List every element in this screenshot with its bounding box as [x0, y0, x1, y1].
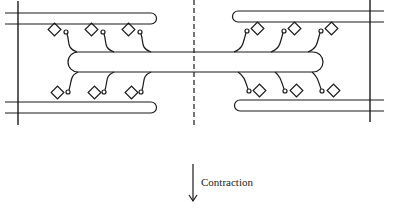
- sarcomere-diagram: [0, 0, 398, 218]
- thin-filament-top-left: [5, 13, 157, 24]
- thin-filament-bottom-left: [5, 102, 157, 113]
- thin-filament-top-right: [233, 11, 385, 22]
- contraction-label: Contraction: [201, 176, 253, 188]
- myosin-heads-right-top: [234, 22, 338, 52]
- arrow-down-icon: [189, 164, 197, 201]
- myosin-heads-right-bottom: [238, 72, 340, 97]
- myosin-heads-left-bottom: [51, 72, 151, 99]
- thin-filament-bottom-right: [235, 100, 385, 111]
- thick-filament: [68, 52, 323, 72]
- myosin-heads-left-top: [48, 23, 151, 52]
